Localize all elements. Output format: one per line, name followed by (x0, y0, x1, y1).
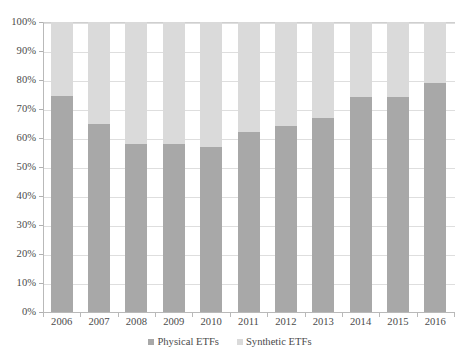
bar-segment-synthetic (238, 22, 260, 132)
bar-group (275, 22, 297, 312)
bar-segment-synthetic (312, 22, 334, 118)
bar-segment-physical (238, 132, 260, 312)
bar-segment-physical (387, 97, 409, 312)
x-axis-label: 2016 (412, 316, 458, 328)
y-axis-label: 60% (0, 132, 36, 143)
y-axis-label: 80% (0, 74, 36, 85)
legend-swatch-icon (148, 339, 154, 345)
bar-segment-synthetic (424, 22, 446, 83)
y-axis-tick (39, 51, 43, 52)
bar-segment-physical (88, 124, 110, 313)
y-axis-label: 40% (0, 190, 36, 201)
bar-segment-physical (312, 118, 334, 312)
bar-group (200, 22, 222, 312)
y-axis-label: 50% (0, 161, 36, 172)
bar-segment-synthetic (200, 22, 222, 147)
bar-group (125, 22, 147, 312)
y-axis-label: 90% (0, 45, 36, 56)
figure-title-clipped: FIGURE 4: PHYSICAL AND SYNTHETIC SHARE O… (0, 0, 460, 3)
y-axis-label: 0% (0, 306, 36, 317)
bar-segment-physical (163, 144, 185, 312)
y-axis-label: 10% (0, 277, 36, 288)
bar-segment-synthetic (350, 22, 372, 97)
bar-segment-physical (51, 96, 73, 312)
legend-swatch-icon (237, 339, 243, 345)
bar-segment-physical (275, 126, 297, 312)
y-axis-tick (39, 22, 43, 23)
figure-title-text: FIGURE 4: PHYSICAL AND SYNTHETIC SHARE O… (0, 0, 460, 1)
bar-segment-synthetic (163, 22, 185, 144)
y-axis-tick (39, 167, 43, 168)
y-axis-label: 30% (0, 219, 36, 230)
x-axis-tick (454, 313, 455, 317)
y-axis-tick (39, 109, 43, 110)
y-axis-tick (39, 80, 43, 81)
bar-group (163, 22, 185, 312)
legend-label: Synthetic ETFs (246, 336, 312, 347)
y-axis-tick (39, 254, 43, 255)
bar-group (51, 22, 73, 312)
bar-segment-physical (424, 83, 446, 312)
y-axis-label: 70% (0, 103, 36, 114)
bar-group (424, 22, 446, 312)
x-axis-line (43, 312, 455, 313)
bar-group (238, 22, 260, 312)
legend-label: Physical ETFs (157, 336, 219, 347)
bar-segment-synthetic (387, 22, 409, 97)
y-axis-label: 20% (0, 248, 36, 259)
bar-segment-physical (350, 97, 372, 312)
stacked-bar-chart: FIGURE 4: PHYSICAL AND SYNTHETIC SHARE O… (0, 0, 460, 362)
legend-entry[interactable]: Synthetic ETFs (237, 336, 312, 347)
y-axis-tick (39, 138, 43, 139)
bar-group (350, 22, 372, 312)
y-axis-tick (39, 225, 43, 226)
bar-segment-synthetic (88, 22, 110, 124)
legend-entry[interactable]: Physical ETFs (148, 336, 219, 347)
bar-group (312, 22, 334, 312)
bar-segment-synthetic (275, 22, 297, 126)
y-axis-label: 100% (0, 16, 36, 27)
bar-group (88, 22, 110, 312)
bar-group (387, 22, 409, 312)
chart-legend: Physical ETFsSynthetic ETFs (0, 336, 460, 347)
bar-segment-synthetic (51, 22, 73, 96)
bar-segment-physical (125, 144, 147, 312)
bar-segment-synthetic (125, 22, 147, 144)
bar-segment-physical (200, 147, 222, 312)
y-axis-tick (39, 196, 43, 197)
y-axis-tick (39, 283, 43, 284)
